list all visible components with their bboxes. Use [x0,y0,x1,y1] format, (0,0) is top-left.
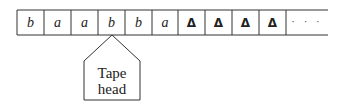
tape-cell-7-blank: Δ [214,16,224,30]
tape-cell-0: b [27,15,34,30]
tape-cell-1: a [54,15,61,30]
tape-cell-4: b [135,15,142,30]
turing-machine-tape-diagram: b a a b b a Δ Δ Δ Δ · · · Tape head [0,0,343,109]
tape-head: Tape head [84,35,140,100]
tape-continuation-ellipsis: · · · [291,15,323,27]
tape-cell-8-blank: Δ [241,16,251,30]
tape-head-label-line2: head [98,81,127,97]
tape-cell-3: b [108,15,115,30]
tape-cell-5: a [162,15,169,30]
tape [17,10,328,35]
tape-cell-9-blank: Δ [268,16,278,30]
tape-cell-6-blank: Δ [187,16,197,30]
tape-head-label-line1: Tape [98,65,127,81]
tape-cell-2: a [81,15,88,30]
